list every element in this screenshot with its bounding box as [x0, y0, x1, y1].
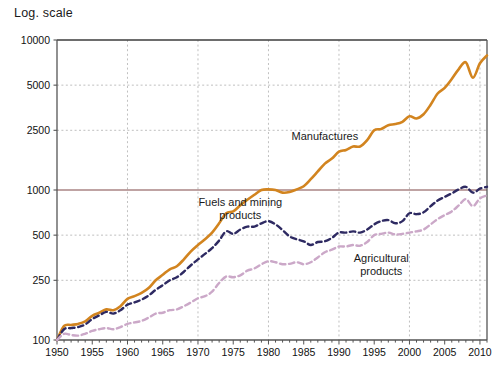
series-label-manufactures: Manufactures: [292, 130, 359, 142]
y-tick-label: 500: [32, 229, 50, 241]
x-tick-label: 1955: [81, 346, 105, 358]
x-tick-label: 1995: [363, 346, 387, 358]
x-tick-label: 2005: [433, 346, 457, 358]
series-label-fuels-and-mining-products-line2: products: [219, 209, 262, 221]
x-tick-label: 1980: [257, 346, 281, 358]
y-axis-tick-labels: 10000500025001000500250100: [21, 34, 50, 346]
x-tick-label: 2000: [398, 346, 422, 358]
series-label-agricultural-products-line2: products: [360, 265, 403, 277]
x-tick-label: 1985: [292, 346, 316, 358]
x-axis-tick-marks: [57, 340, 487, 345]
y-tick-label: 5000: [27, 79, 51, 91]
y-tick-label: 1000: [27, 184, 51, 196]
x-tick-label: 1975: [222, 346, 246, 358]
y-tick-label: 250: [32, 274, 50, 286]
chart-container: Log. scale 10000500025001000500250100 19…: [0, 0, 504, 368]
y-tick-label: 10000: [21, 34, 50, 46]
x-tick-label: 1960: [116, 346, 140, 358]
chart-plot-area: 10000500025001000500250100 1950195519601…: [0, 0, 504, 368]
x-tick-label: 2010: [468, 346, 492, 358]
x-axis-tick-labels: 1950195519601965197019751980198519901995…: [45, 346, 491, 358]
y-tick-label: 100: [32, 334, 50, 346]
series-line-fuels-and-mining-products: [57, 187, 487, 340]
x-tick-label: 1965: [151, 346, 175, 358]
y-tick-label: 2500: [27, 124, 51, 136]
x-tick-label: 1990: [327, 346, 351, 358]
series-line-agricultural-products: [57, 195, 487, 340]
x-tick-label: 1970: [186, 346, 210, 358]
x-tick-label: 1950: [45, 346, 69, 358]
series-label-agricultural-products: Agricultural: [354, 252, 409, 264]
series-label-fuels-and-mining-products: Fuels and mining: [198, 196, 282, 208]
series-annotations: ManufacturesFuels and miningproductsAgri…: [198, 130, 408, 277]
